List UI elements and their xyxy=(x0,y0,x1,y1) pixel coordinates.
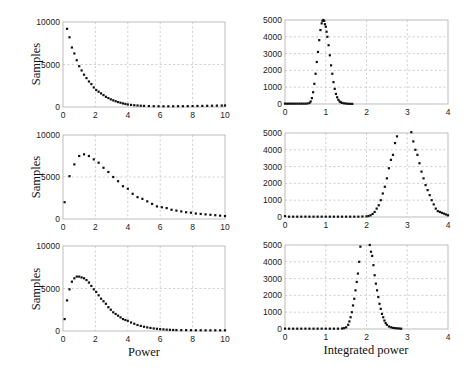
data-point xyxy=(353,216,355,218)
x-tick-label: 1 xyxy=(323,220,328,230)
data-point xyxy=(107,97,109,99)
x-tick-label: 0 xyxy=(61,222,66,232)
data-point xyxy=(102,300,104,302)
data-point xyxy=(435,208,437,210)
data-point xyxy=(81,69,83,71)
data-point xyxy=(66,28,68,30)
data-point xyxy=(390,326,392,328)
x-tick-label: 0 xyxy=(283,107,288,117)
data-point xyxy=(90,83,92,85)
data-point xyxy=(88,155,90,157)
data-point xyxy=(332,81,334,83)
figure-canvas: 0246810050001000001234010002000300040005… xyxy=(0,0,470,377)
data-point xyxy=(167,105,169,107)
data-point xyxy=(153,327,155,329)
data-point xyxy=(219,215,221,217)
data-point xyxy=(95,89,97,91)
data-point xyxy=(190,329,192,331)
data-point xyxy=(133,104,135,106)
data-point xyxy=(296,328,298,330)
data-point xyxy=(292,216,294,218)
data-point xyxy=(284,103,286,105)
data-point xyxy=(93,288,95,290)
data-point xyxy=(100,92,102,94)
data-point xyxy=(146,326,148,328)
x-tick-label: 1 xyxy=(323,107,328,117)
data-point xyxy=(127,103,129,105)
data-point xyxy=(349,216,351,218)
data-point xyxy=(447,214,449,216)
data-point xyxy=(175,329,177,331)
data-point xyxy=(443,213,445,215)
data-point xyxy=(349,103,351,105)
x-tick-label: 4 xyxy=(446,220,451,230)
data-point xyxy=(329,216,331,218)
data-point xyxy=(321,216,323,218)
y-tick-label: 3000 xyxy=(263,274,282,284)
data-point xyxy=(206,105,208,107)
y-tick-label: 5000 xyxy=(41,284,60,294)
x-tick-label: 3 xyxy=(405,332,410,342)
data-point xyxy=(132,193,134,195)
data-point xyxy=(351,103,353,105)
data-point xyxy=(68,36,70,38)
data-point xyxy=(182,105,184,107)
data-point xyxy=(95,291,97,293)
data-point xyxy=(386,324,388,326)
data-point xyxy=(300,328,302,330)
x-tick-label: 6 xyxy=(158,334,163,344)
data-point xyxy=(219,329,221,331)
data-point xyxy=(336,96,338,98)
data-point xyxy=(78,276,80,278)
data-point xyxy=(180,329,182,331)
data-point xyxy=(343,102,345,104)
data-point xyxy=(359,246,361,248)
data-point xyxy=(73,163,75,165)
data-point xyxy=(98,91,100,93)
x-tick-label: 8 xyxy=(190,334,195,344)
y-tick-label: 0 xyxy=(55,214,60,224)
data-point xyxy=(416,154,418,156)
data-point xyxy=(376,289,378,291)
data-point xyxy=(76,276,78,278)
data-point xyxy=(294,103,296,105)
data-point xyxy=(122,318,124,320)
data-point xyxy=(169,329,171,331)
data-point xyxy=(224,215,226,217)
data-point xyxy=(317,51,319,53)
x-tick-label: 0 xyxy=(283,220,288,230)
data-point xyxy=(209,329,211,331)
data-point xyxy=(127,320,129,322)
data-point xyxy=(304,216,306,218)
data-point xyxy=(433,203,435,205)
data-point xyxy=(83,153,85,155)
x-tick-label: 0 xyxy=(283,332,288,342)
data-point xyxy=(136,324,138,326)
data-point xyxy=(422,177,424,179)
x-tick-label: 8 xyxy=(190,222,195,232)
data-point xyxy=(396,135,398,137)
data-point xyxy=(418,162,420,164)
y-tick-label: 4000 xyxy=(263,145,282,155)
data-point xyxy=(110,309,112,311)
ylabel-left-bottom: Samples xyxy=(29,268,43,310)
data-point xyxy=(170,209,172,211)
data-point xyxy=(83,74,85,76)
data-point xyxy=(382,316,384,318)
data-point xyxy=(204,329,206,331)
data-point xyxy=(445,213,447,215)
y-tick-label: 2000 xyxy=(263,290,282,300)
data-point xyxy=(71,46,73,48)
data-point xyxy=(354,289,356,291)
ylabel-left-middle: Samples xyxy=(29,156,43,198)
data-point xyxy=(343,327,345,329)
data-point xyxy=(124,319,126,321)
data-point xyxy=(296,103,298,105)
data-point xyxy=(347,103,349,105)
panel-right-top: 01234010002000300040005000 xyxy=(263,15,451,117)
data-point xyxy=(382,192,384,194)
data-point xyxy=(140,105,142,107)
data-point xyxy=(286,103,288,105)
data-point xyxy=(117,315,119,317)
data-point xyxy=(358,261,360,263)
